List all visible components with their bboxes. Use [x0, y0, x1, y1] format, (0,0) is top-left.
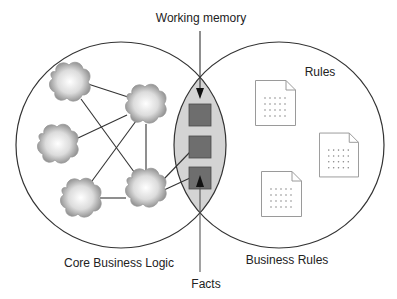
logic-node-1-cloud-icon: [49, 62, 90, 101]
link: [92, 121, 136, 181]
rule-document-1-icon: [256, 81, 296, 126]
business-rules-label: Business Rules: [246, 253, 329, 267]
rule-document-3-icon: [262, 172, 302, 217]
fact-1: [189, 104, 211, 126]
logic-node-3-cloud-icon: [37, 124, 78, 163]
rule-document-2-icon: [319, 133, 358, 177]
link: [78, 115, 127, 138]
logic-node-4-cloud-icon: [60, 178, 101, 217]
facts-label: Facts: [191, 277, 220, 291]
rule-engine-diagram: Working memory Rules Core Business Logic…: [0, 0, 397, 299]
working-memory-label: Working memory: [156, 11, 246, 25]
fact-2: [189, 136, 211, 158]
link: [88, 84, 128, 97]
logic-node-2-cloud-icon: [125, 84, 166, 123]
core-business-logic-label: Core Business Logic: [64, 256, 174, 270]
rules-label: Rules: [305, 65, 336, 79]
logic-node-5-cloud-icon: [125, 168, 166, 207]
